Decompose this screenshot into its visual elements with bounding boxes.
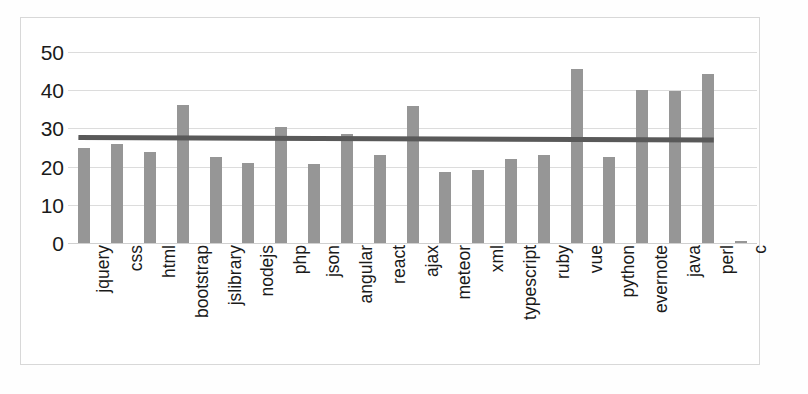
plot-area (68, 33, 757, 243)
chart-figure: 01020304050 jquerycsshtmlbootstrapjslibr… (0, 0, 808, 394)
x-tick-label-react: react (389, 245, 409, 363)
x-tick-label-html: html (159, 245, 179, 363)
y-tick-label-20: 20 (41, 156, 64, 177)
gridline-0 (68, 243, 757, 244)
x-tick-label-nodejs: nodejs (257, 245, 277, 363)
x-tick-label-vue: vue (586, 245, 606, 363)
y-tick-label-50: 50 (41, 42, 64, 63)
y-tick-label-40: 40 (41, 80, 64, 101)
x-tick-label-c: c (750, 245, 770, 363)
trendline-segment (78, 138, 713, 140)
x-tick-label-ruby: ruby (553, 245, 573, 363)
x-tick-label-xml: xml (487, 245, 507, 363)
x-tick-label-jquery: jquery (93, 245, 113, 363)
x-axis: jquerycsshtmlbootstrapjslibrarynodejsphp… (68, 245, 757, 363)
y-tick-label-30: 30 (41, 118, 64, 139)
x-tick-label-json: json (323, 245, 343, 363)
x-tick-label-bootstrap: bootstrap (192, 245, 212, 363)
x-tick-label-jslibrary: jslibrary (225, 245, 245, 363)
y-tick-label-10: 10 (41, 194, 64, 215)
x-tick-label-java: java (684, 245, 704, 363)
x-tick-label-ajax: ajax (422, 245, 442, 363)
x-tick-label-angular: angular (356, 245, 376, 363)
trendline (68, 33, 757, 243)
y-tick-label-0: 0 (52, 233, 64, 254)
x-tick-label-php: php (290, 245, 310, 363)
x-tick-label-evernote: evernote (651, 245, 671, 363)
x-tick-label-python: python (618, 245, 638, 363)
y-axis: 01020304050 (20, 33, 64, 243)
x-tick-label-typescript: typescript (520, 245, 540, 363)
x-tick-label-css: css (126, 245, 146, 363)
x-tick-label-perl: perl (717, 245, 737, 363)
x-tick-label-meteor: meteor (454, 245, 474, 363)
